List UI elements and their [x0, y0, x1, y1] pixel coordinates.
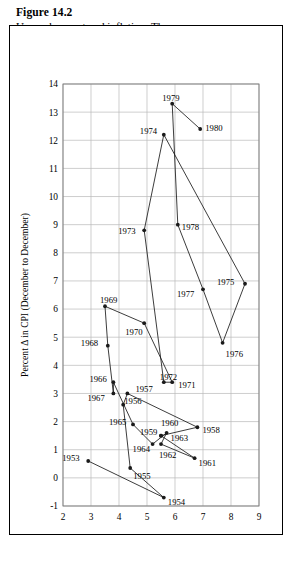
- figure-number: Figure 14.2: [16, 6, 256, 20]
- svg-text:1962: 1962: [159, 450, 176, 460]
- svg-text:7: 7: [53, 276, 58, 286]
- svg-text:1960: 1960: [161, 418, 179, 428]
- svg-text:7: 7: [201, 512, 206, 522]
- svg-text:1979: 1979: [162, 93, 179, 103]
- svg-text:1958: 1958: [202, 425, 220, 435]
- figure-box: -101234567891011121314 23456789 19531954…: [9, 25, 283, 535]
- svg-text:5: 5: [53, 333, 58, 343]
- svg-text:-1: -1: [50, 501, 58, 511]
- svg-text:2: 2: [61, 512, 66, 522]
- svg-text:1955: 1955: [133, 471, 150, 481]
- x-axis-tick-labels: 23456789: [61, 512, 262, 522]
- x-axis-title: Average annual rate of unemployment: [88, 535, 235, 536]
- svg-text:1965: 1965: [109, 417, 126, 427]
- svg-text:1970: 1970: [125, 327, 143, 337]
- svg-text:8: 8: [53, 248, 58, 258]
- svg-text:11: 11: [49, 164, 58, 174]
- svg-text:1961: 1961: [199, 458, 216, 468]
- svg-text:1963: 1963: [171, 433, 188, 443]
- svg-text:1968: 1968: [81, 338, 99, 348]
- svg-text:12: 12: [49, 136, 59, 146]
- svg-text:9: 9: [53, 220, 58, 230]
- svg-text:6: 6: [173, 512, 178, 522]
- scatter-chart: -101234567891011121314 23456789 19531954…: [10, 26, 284, 536]
- y-axis-title: Percent Δ in CPI (December to December): [19, 213, 31, 377]
- svg-text:1953: 1953: [62, 453, 79, 463]
- chart-plot-area: -101234567891011121314 23456789 19531954…: [10, 26, 284, 536]
- svg-text:3: 3: [53, 389, 58, 399]
- svg-text:4: 4: [117, 512, 122, 522]
- svg-text:13: 13: [49, 108, 59, 118]
- svg-text:1978: 1978: [182, 222, 200, 232]
- svg-text:1971: 1971: [178, 380, 195, 390]
- svg-text:1956: 1956: [124, 396, 142, 406]
- svg-text:1954: 1954: [168, 497, 186, 507]
- svg-text:1972: 1972: [160, 372, 177, 382]
- svg-text:5: 5: [145, 512, 150, 522]
- svg-text:0: 0: [53, 473, 58, 483]
- svg-text:1967: 1967: [87, 393, 105, 403]
- y-axis-tick-labels: -101234567891011121314: [49, 79, 59, 511]
- svg-text:1: 1: [53, 445, 58, 455]
- svg-text:8: 8: [229, 512, 234, 522]
- svg-text:1980: 1980: [205, 123, 223, 133]
- svg-text:2: 2: [53, 417, 58, 427]
- svg-text:4: 4: [53, 361, 58, 371]
- svg-text:1977: 1977: [177, 289, 195, 299]
- svg-text:1976: 1976: [226, 349, 244, 359]
- svg-text:10: 10: [49, 192, 59, 202]
- svg-text:6: 6: [53, 304, 58, 314]
- svg-text:1969: 1969: [100, 295, 117, 305]
- svg-text:1959: 1959: [140, 427, 157, 437]
- svg-text:1975: 1975: [217, 277, 234, 287]
- svg-text:1966: 1966: [89, 374, 107, 384]
- svg-text:1973: 1973: [118, 226, 135, 236]
- svg-text:14: 14: [49, 79, 59, 89]
- svg-text:1974: 1974: [140, 126, 158, 136]
- svg-text:1964: 1964: [133, 444, 151, 454]
- svg-text:1957: 1957: [135, 384, 153, 394]
- svg-text:3: 3: [89, 512, 94, 522]
- svg-text:9: 9: [257, 512, 262, 522]
